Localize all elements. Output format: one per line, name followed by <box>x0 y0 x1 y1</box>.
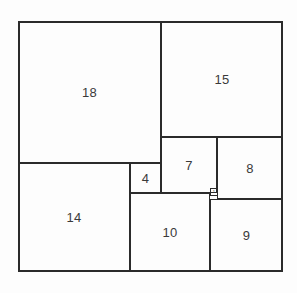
sub-square-label: 4 <box>142 172 149 185</box>
sub-square-14: 14 <box>18 163 130 272</box>
sub-square-label: 10 <box>163 226 178 239</box>
diagram-canvas: 1815141098741 <box>0 0 297 293</box>
sub-square-label: 15 <box>215 73 230 86</box>
sub-square-10: 10 <box>130 193 210 272</box>
sub-square-4: 4 <box>130 163 161 193</box>
sub-square-label: 8 <box>246 162 253 175</box>
sub-square-label: 14 <box>67 211 82 224</box>
sub-square-label: 18 <box>82 86 97 99</box>
sub-square-label: 9 <box>243 229 250 242</box>
sub-square-7: 7 <box>161 137 217 193</box>
sub-square-1: 1 <box>210 188 218 196</box>
sub-square-label: 7 <box>185 159 192 172</box>
sub-square-18: 18 <box>18 21 161 163</box>
sub-square-8: 8 <box>217 137 283 199</box>
squared-square-figure: 1815141098741 <box>0 0 297 293</box>
sub-square-15: 15 <box>161 21 283 137</box>
sub-square-label: 1 <box>213 190 215 194</box>
sub-square-9: 9 <box>210 199 283 272</box>
